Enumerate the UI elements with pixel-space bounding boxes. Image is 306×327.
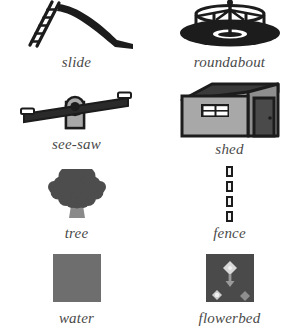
tree-symbol — [0, 164, 153, 220]
legend-label-water: water — [59, 311, 94, 326]
legend-item-water: water — [0, 249, 153, 327]
tree-icon — [46, 169, 108, 219]
legend-item-flowerbed: flowerbed — [153, 249, 306, 327]
shed-symbol — [153, 82, 306, 140]
water-icon — [53, 254, 101, 302]
roundabout-symbol — [153, 0, 306, 50]
legend-grid: slide roundabout — [0, 0, 306, 327]
fence-post — [226, 181, 233, 192]
legend-item-roundabout: roundabout — [153, 0, 306, 82]
legend-item-slide: slide — [0, 0, 153, 82]
legend-item-fence: fence — [153, 164, 306, 249]
legend-label-slide: slide — [62, 55, 91, 70]
fence-post — [226, 211, 233, 222]
fence-post — [226, 196, 233, 207]
legend-item-shed: shed — [153, 82, 306, 164]
water-symbol — [0, 249, 153, 303]
flowerbed-symbol — [153, 249, 306, 303]
shed-icon — [178, 82, 282, 140]
legend-label-see-saw: see-saw — [52, 137, 101, 152]
legend-item-see-saw: see-saw — [0, 82, 153, 164]
legend-label-tree: tree — [65, 226, 89, 241]
legend-label-flowerbed: flowerbed — [199, 311, 261, 326]
roundabout-icon — [178, 0, 282, 50]
slide-icon — [21, 0, 133, 50]
legend-label-shed: shed — [215, 142, 243, 157]
fence-post — [226, 166, 233, 177]
see-saw-symbol — [0, 82, 153, 133]
fence-icon — [226, 166, 233, 222]
fence-symbol — [153, 164, 306, 220]
see-saw-icon — [18, 86, 136, 133]
legend-label-roundabout: roundabout — [194, 55, 265, 70]
legend-item-tree: tree — [0, 164, 153, 249]
flowerbed-icon — [206, 254, 254, 302]
slide-symbol — [0, 0, 153, 50]
legend-label-fence: fence — [213, 226, 246, 241]
